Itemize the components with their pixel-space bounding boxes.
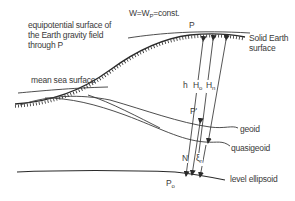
geoid-label: geoid [240,124,260,134]
equipotential-label: equipotential surface of the Earth gravi… [28,20,111,50]
Ho-label: Ho [193,80,202,93]
potential-equation: W=WP=const. [129,8,179,21]
h-label: h [183,80,188,90]
point-P0-label: Po [166,178,175,191]
quasigeoid-label: quasigeoid [231,143,270,153]
N-arrow [192,123,200,175]
Hn-label: Hn [206,80,215,93]
N-label: N [182,153,188,163]
point-P-label: P [189,20,194,30]
level-ellipsoid-line [17,171,225,181]
xi-label: ξn [196,153,203,166]
solid-earth-label: Solid Earth surface [249,33,288,53]
point-P-prime-label: P' [190,106,197,116]
level-ellipsoid-label: level ellipsoid [230,174,278,184]
mean-sea-surface-line [18,87,108,93]
mean-sea-surface-label: mean sea surface [31,75,95,85]
quasigeoid-line [45,98,230,146]
